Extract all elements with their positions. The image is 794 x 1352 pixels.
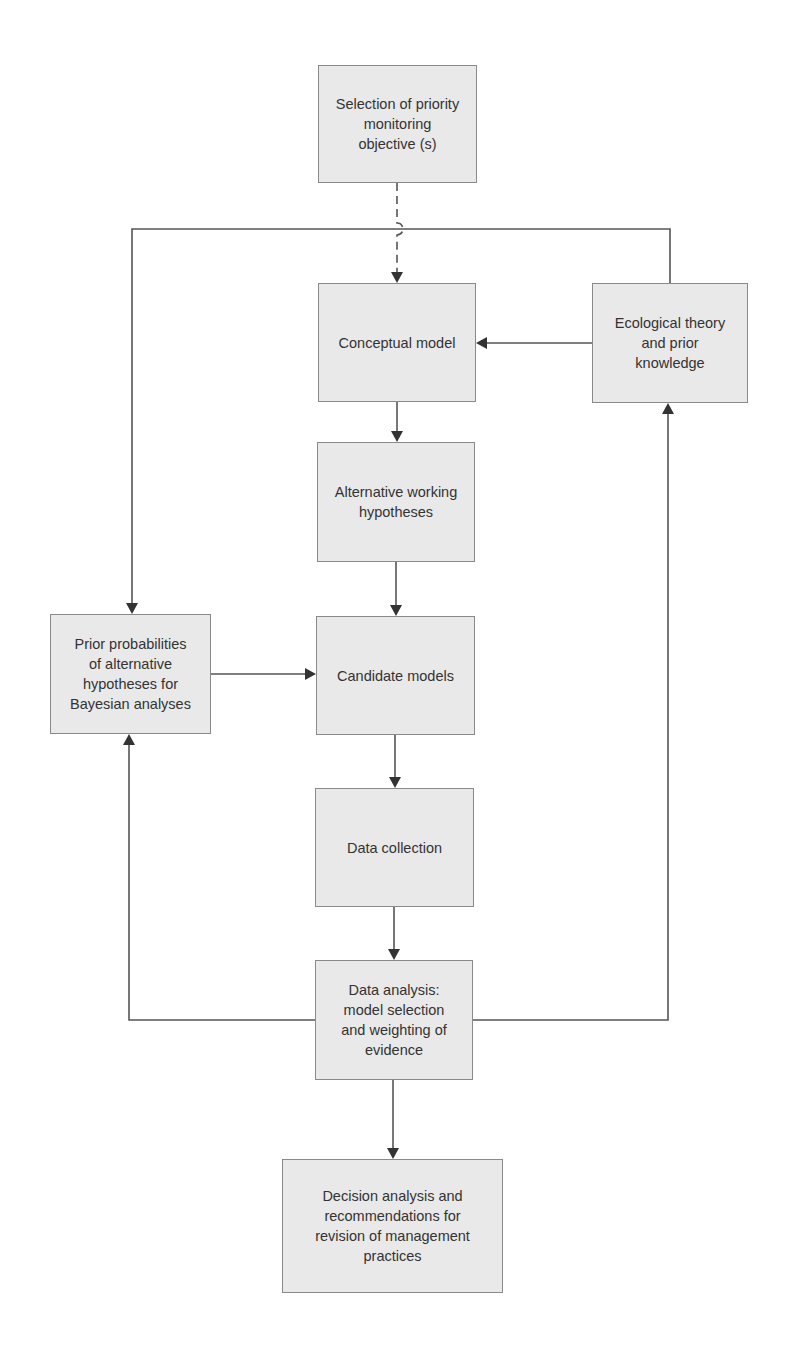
node-label: Data collection xyxy=(347,838,442,858)
node-alternative-hypotheses: Alternative working hypotheses xyxy=(317,442,475,562)
node-label: Prior probabilities of alternative hypot… xyxy=(70,634,191,714)
node-label: Selection of priority monitoring objecti… xyxy=(336,94,459,154)
node-label: Candidate models xyxy=(337,666,454,686)
arrowhead-icon xyxy=(123,734,135,745)
arrowhead-icon xyxy=(390,605,402,616)
arrowhead-icon xyxy=(391,431,403,442)
node-candidate-models: Candidate models xyxy=(316,616,475,735)
node-data-collection: Data collection xyxy=(315,788,474,907)
arrowhead-icon xyxy=(391,272,403,283)
arrowhead-icon xyxy=(388,949,400,960)
arrowhead-icon xyxy=(662,403,674,414)
node-data-analysis: Data analysis: model selection and weigh… xyxy=(315,960,473,1080)
arrowhead-icon xyxy=(476,337,487,349)
node-decision-analysis: Decision analysis and recommendations fo… xyxy=(282,1159,503,1293)
flowchart-canvas: Selection of priority monitoring objecti… xyxy=(0,0,794,1352)
node-prior-probabilities: Prior probabilities of alternative hypot… xyxy=(50,614,211,734)
node-conceptual-model: Conceptual model xyxy=(318,283,476,402)
node-label: Conceptual model xyxy=(339,333,456,353)
connector-objective-to-conceptual xyxy=(397,183,403,272)
node-label: Data analysis: model selection and weigh… xyxy=(341,980,447,1060)
node-selection-of-priority-objectives: Selection of priority monitoring objecti… xyxy=(318,65,477,183)
node-label: Decision analysis and recommendations fo… xyxy=(315,1186,470,1266)
arrowhead-icon xyxy=(387,1148,399,1159)
node-label: Alternative working hypotheses xyxy=(335,482,458,522)
connector-analysis-to-prior xyxy=(129,745,315,1020)
arrowhead-icon xyxy=(126,603,138,614)
connector-analysis-to-ecological xyxy=(473,414,668,1020)
node-ecological-theory: Ecological theory and prior knowledge xyxy=(592,283,748,403)
arrowhead-icon xyxy=(389,777,401,788)
node-label: Ecological theory and prior knowledge xyxy=(615,313,725,373)
arrowhead-icon xyxy=(305,668,316,680)
